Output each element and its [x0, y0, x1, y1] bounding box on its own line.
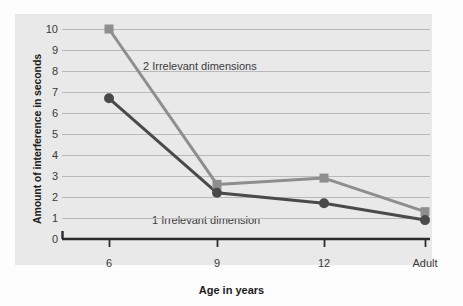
marker-0-1 [213, 180, 222, 189]
marker-1-3 [420, 215, 430, 225]
series-line-0 [109, 29, 425, 212]
marker-1-1 [212, 188, 222, 198]
marker-1-0 [104, 93, 114, 103]
marker-1-2 [319, 198, 329, 208]
axis-lines [62, 231, 430, 239]
marker-0-3 [421, 207, 430, 216]
marker-0-2 [320, 174, 329, 183]
chart-figure: Amount of interference in seconds 10 9 8… [0, 0, 463, 306]
series-lines [109, 29, 425, 220]
series-markers [104, 25, 430, 226]
plot-drawing-layer [0, 0, 463, 306]
series-line-1 [109, 98, 425, 220]
marker-0-0 [105, 25, 114, 34]
gridlines [62, 30, 430, 219]
